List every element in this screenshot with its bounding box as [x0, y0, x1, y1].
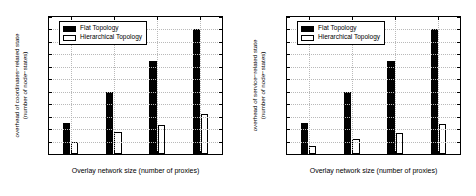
legend-label-hierarchical: Hierarchical Topology	[80, 34, 142, 41]
y-gridline	[49, 67, 222, 68]
y-axis-tick-mark	[49, 92, 52, 93]
bar-hierarchical-topology	[396, 133, 403, 154]
y-axis-tick-mark	[457, 67, 460, 68]
y-gridline	[287, 117, 460, 118]
x-axis-tick-mark	[309, 151, 310, 154]
x-axis-tick-mark	[395, 17, 396, 20]
legend-label-flat: Flat Topology	[318, 25, 357, 32]
x-axis-label-right: Overlay network size (number of proxies)	[286, 167, 461, 175]
y-axis-tick-mark	[457, 154, 460, 155]
y-axis-tick-mark	[287, 29, 290, 30]
y-gridline	[49, 104, 222, 105]
legend-item-flat-left: Flat Topology	[63, 24, 142, 33]
bar-flat-topology	[301, 123, 308, 154]
y-axis-tick-mark	[457, 117, 460, 118]
y-axis-tick-mark	[457, 79, 460, 80]
legend-item-hierarchical-left: Hierarchical Topology	[63, 33, 142, 42]
legend-left: Flat Topology Hierarchical Topology	[59, 21, 147, 45]
y-axis-tick-mark	[457, 42, 460, 43]
y-gridline	[287, 67, 460, 68]
figure-two-bar-charts: overhead of coordinates−related state (n…	[0, 0, 476, 196]
y-axis-tick-mark	[287, 67, 290, 68]
y-axis-tick-mark	[287, 42, 290, 43]
y-axis-tick-mark	[219, 117, 222, 118]
y-axis-tick-mark	[457, 17, 460, 18]
x-axis-tick-mark	[438, 17, 439, 20]
bar-flat-topology	[106, 92, 113, 154]
y-axis-tick-mark	[287, 117, 290, 118]
plot-area-right: Flat Topology Hierarchical Topology 0100…	[286, 16, 461, 155]
y-gridline	[287, 92, 460, 93]
y-axis-tick-mark	[457, 142, 460, 143]
y-axis-tick-mark	[219, 79, 222, 80]
x-axis-tick-mark	[352, 17, 353, 20]
y-axis-tick-mark	[287, 129, 290, 130]
legend-swatch-flat-icon	[63, 26, 76, 32]
x-axis-tick-mark	[438, 151, 439, 154]
bar-hierarchical-topology	[201, 114, 208, 154]
x-gridline	[395, 17, 396, 154]
x-axis-tick-mark	[309, 17, 310, 20]
bar-hierarchical-topology	[71, 142, 78, 154]
y-axis-tick-mark	[219, 17, 222, 18]
y-axis-tick-mark	[219, 154, 222, 155]
y-gridline	[287, 54, 460, 55]
legend-right: Flat Topology Hierarchical Topology	[297, 21, 385, 45]
y-axis-tick-mark	[287, 92, 290, 93]
y-gridline	[49, 142, 222, 143]
y-axis-tick-mark	[219, 92, 222, 93]
x-axis-tick-mark	[114, 151, 115, 154]
y-axis-label-right-line2: (number of node−states)	[259, 16, 271, 155]
y-axis-tick-mark	[287, 79, 290, 80]
y-axis-tick-mark	[457, 29, 460, 30]
chart-panel-service-overhead: overhead of service−related state (numbe…	[238, 0, 476, 196]
y-axis-tick-mark	[49, 29, 52, 30]
y-axis-tick-mark	[49, 142, 52, 143]
legend-swatch-hierarchical-icon	[63, 35, 76, 41]
y-axis-tick-mark	[49, 104, 52, 105]
legend-item-flat-right: Flat Topology	[301, 24, 380, 33]
bar-hierarchical-topology	[114, 132, 121, 154]
plot-area-left: Flat Topology Hierarchical Topology 0100…	[48, 16, 223, 155]
x-axis-tick-mark	[71, 17, 72, 20]
y-axis-tick-mark	[49, 17, 52, 18]
y-gridline	[49, 92, 222, 93]
legend-swatch-hierarchical-icon	[301, 35, 314, 41]
y-axis-tick-mark	[49, 42, 52, 43]
x-axis-label-left: Overlay network size (number of proxies)	[48, 167, 223, 175]
bar-flat-topology	[344, 92, 351, 154]
x-axis-tick-mark	[157, 151, 158, 154]
y-gridline	[49, 129, 222, 130]
x-axis-tick-mark	[395, 151, 396, 154]
legend-label-flat: Flat Topology	[80, 25, 119, 32]
x-gridline	[438, 17, 439, 154]
y-axis-tick-mark	[49, 67, 52, 68]
chart-panel-coordinates-overhead: overhead of coordinates−related state (n…	[0, 0, 238, 196]
bar-hierarchical-topology	[309, 146, 316, 154]
legend-swatch-flat-icon	[301, 26, 314, 32]
x-axis-tick-mark	[157, 17, 158, 20]
y-axis-tick-mark	[287, 54, 290, 55]
x-gridline	[157, 17, 158, 154]
y-gridline	[49, 117, 222, 118]
y-axis-tick-mark	[457, 104, 460, 105]
y-axis-tick-mark	[287, 142, 290, 143]
y-axis-tick-mark	[219, 142, 222, 143]
bar-flat-topology	[387, 61, 394, 154]
x-axis-tick-mark	[71, 151, 72, 154]
y-axis-tick-mark	[457, 129, 460, 130]
y-axis-tick-mark	[457, 92, 460, 93]
y-axis-tick-mark	[49, 79, 52, 80]
y-gridline	[287, 104, 460, 105]
x-axis-tick-mark	[200, 17, 201, 20]
x-axis-tick-mark	[352, 151, 353, 154]
y-gridline	[49, 79, 222, 80]
y-axis-label-left-line2: (number of node−states)	[21, 16, 33, 155]
y-axis-tick-mark	[219, 29, 222, 30]
y-axis-tick-mark	[49, 154, 52, 155]
y-axis-tick-mark	[457, 54, 460, 55]
y-axis-tick-mark	[49, 54, 52, 55]
y-axis-tick-mark	[219, 54, 222, 55]
y-axis-tick-mark	[219, 104, 222, 105]
x-axis-tick-mark	[200, 151, 201, 154]
